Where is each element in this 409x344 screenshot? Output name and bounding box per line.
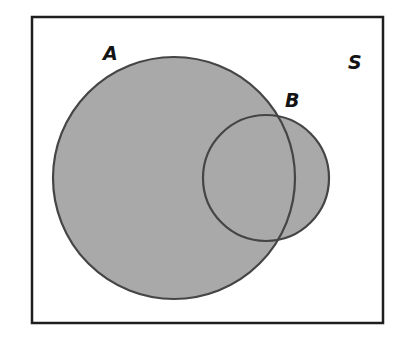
- set-b-label: B: [285, 89, 299, 111]
- venn-diagram: A B S: [0, 0, 409, 344]
- set-a-label: A: [101, 42, 118, 64]
- universe-label: S: [348, 51, 362, 73]
